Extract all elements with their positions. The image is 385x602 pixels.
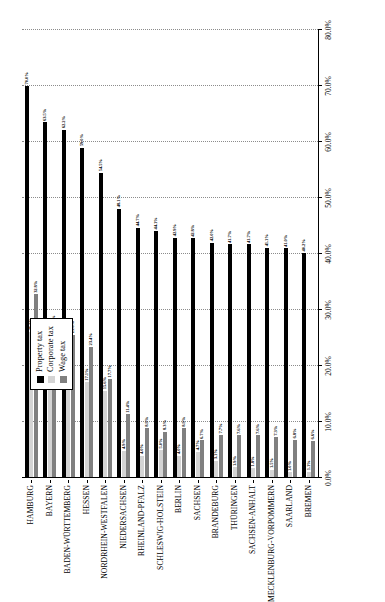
bar-row: 44.7%	[136, 30, 140, 478]
bar[interactable]	[80, 148, 84, 478]
category-axis-line	[22, 477, 318, 478]
bar[interactable]	[247, 244, 251, 478]
bar[interactable]	[311, 441, 315, 478]
bar-value-label: 7.6%	[255, 424, 260, 434]
bar-row: 54.5%	[99, 30, 103, 478]
bar-group: 40.2%1.1%6.6%	[302, 30, 315, 478]
bar[interactable]	[99, 173, 103, 478]
category-tick	[124, 480, 125, 483]
bar-row: 11.4%	[126, 30, 130, 478]
bar[interactable]	[122, 451, 126, 478]
bar[interactable]	[103, 391, 107, 478]
legend-swatch-icon	[60, 376, 67, 383]
bar-value-label: 32.8%	[33, 281, 38, 293]
category-tick	[87, 480, 88, 483]
chart-legend: Property taxCorporate taxWage tax	[30, 318, 73, 390]
bar-group: 41.7%1.8%7.6%	[247, 30, 260, 478]
bar[interactable]	[302, 253, 306, 478]
bar[interactable]	[214, 461, 218, 478]
bar[interactable]	[136, 228, 140, 478]
bar[interactable]	[210, 243, 214, 478]
bar-row: 25.6%	[71, 30, 75, 478]
bar-row: 40.2%	[302, 30, 306, 478]
category-label: SCHLESWIG-HOLSTEIN	[157, 485, 165, 570]
bar-row: 4.0%	[140, 30, 144, 478]
bar[interactable]	[62, 130, 66, 478]
bar[interactable]	[163, 432, 167, 478]
category-label: BADEN-WÜRTTEMBERG	[64, 485, 72, 574]
value-axis-tick-label: 20.0%	[325, 356, 333, 376]
bar-row: 8.3%	[163, 30, 167, 478]
bar-row: 41.1%	[265, 30, 269, 478]
category-tick	[68, 480, 69, 483]
bar-group: 48.1%4.9%11.4%	[117, 30, 130, 478]
category-label: NORDRHEIN-WESTFALEN	[101, 485, 109, 579]
bar-value-label: 11.4%	[126, 401, 131, 413]
bar-group: 41.0%1.0%6.8%	[284, 30, 297, 478]
bar[interactable]	[173, 238, 177, 478]
bar[interactable]	[284, 248, 288, 478]
bar-row: 3.1%	[214, 30, 218, 478]
bar[interactable]	[85, 382, 89, 478]
bar-row: 7.6%	[256, 30, 260, 478]
value-tick	[318, 197, 322, 198]
legend-item[interactable]: Wage tax	[59, 326, 67, 383]
legend-swatch-icon	[37, 376, 44, 383]
bar-row: 59.0%	[80, 30, 84, 478]
bar[interactable]	[126, 414, 130, 478]
bar[interactable]	[265, 248, 269, 478]
bar-row: 42.9%	[173, 30, 177, 478]
plot-area: 70.0%26.1%32.8%63.5%20.0%26.6%62.2%18.1%…	[22, 30, 318, 478]
bar-row: 20.0%	[48, 30, 52, 478]
bar[interactable]	[108, 379, 112, 478]
category-tick	[198, 480, 199, 483]
bar[interactable]	[66, 377, 70, 478]
bar[interactable]	[182, 428, 186, 478]
bar-row: 17.1%	[85, 30, 89, 478]
category-tick	[50, 480, 51, 483]
bar[interactable]	[177, 456, 181, 478]
bar[interactable]	[237, 435, 241, 478]
bar[interactable]	[159, 450, 163, 478]
bar-row: 26.1%	[29, 30, 33, 478]
bar-row: 44.1%	[154, 30, 158, 478]
legend-item[interactable]: Property tax	[36, 326, 44, 383]
bar-row: 41.0%	[284, 30, 288, 478]
bar[interactable]	[274, 437, 278, 478]
category-tick	[272, 480, 273, 483]
bar[interactable]	[43, 122, 47, 478]
category-label: NIEDERSACHSEN	[120, 485, 128, 549]
bar[interactable]	[196, 452, 200, 478]
bar-row: 1.5%	[270, 30, 274, 478]
bar[interactable]	[293, 440, 297, 478]
bar-row: 62.2%	[62, 30, 66, 478]
bar[interactable]	[140, 456, 144, 478]
bar[interactable]	[228, 244, 232, 478]
bar[interactable]	[89, 347, 93, 478]
value-tick	[318, 309, 322, 310]
bar[interactable]	[256, 435, 260, 478]
legend-label: Property tax	[36, 331, 44, 372]
bar-group: 41.1%1.5%7.3%	[265, 30, 278, 478]
category-label: THÜRINGEN	[231, 485, 239, 530]
category-label: BREMEN	[305, 485, 313, 517]
bar-row: 8.9%	[145, 30, 149, 478]
bar-group: 44.7%4.0%8.9%	[136, 30, 149, 478]
bar-group: 62.2%18.1%25.6%	[62, 30, 75, 478]
legend-item[interactable]: Corporate tax	[47, 326, 55, 383]
bar[interactable]	[200, 440, 204, 478]
bar[interactable]	[219, 435, 223, 478]
legend-label: Corporate tax	[47, 326, 55, 372]
bar-group: 63.5%20.0%26.6%	[43, 30, 56, 478]
bar-value-label: 6.6%	[311, 430, 316, 440]
bar-row: 26.6%	[52, 30, 56, 478]
bar[interactable]	[25, 86, 29, 478]
bar[interactable]	[117, 209, 121, 478]
bar-row: 8.9%	[182, 30, 186, 478]
bar-row: 7.6%	[237, 30, 241, 478]
bar[interactable]	[145, 428, 149, 478]
category-label: BAYERN	[46, 485, 54, 516]
bar-value-label: 7.3%	[274, 426, 279, 436]
bar-row: 1.9%	[233, 30, 237, 478]
